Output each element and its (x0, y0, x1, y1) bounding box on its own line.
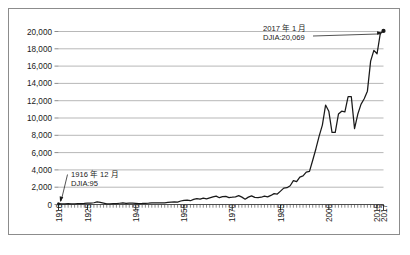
y-tick-label-10000: 10,000 (27, 114, 52, 123)
x-minor-tick-marks (59, 205, 384, 208)
x-tick-label-2017: 2017 (380, 203, 389, 222)
x-tick-label-1985: 1985 (277, 203, 286, 222)
end-point-marker (381, 29, 385, 33)
end-annotation-line1: 2017 年 1 月 (263, 23, 306, 33)
y-tick-label-6000: 6,000 (32, 149, 53, 158)
y-tick-label-12000: 12,000 (27, 97, 52, 106)
y-axis-tick-labels: 02,0004,0006,0008,00010,00012,00014,0001… (27, 28, 52, 210)
start-annotation-arrowhead (60, 196, 64, 202)
x-tick-label-2000: 2000 (325, 203, 334, 222)
start-annotation-line1: 1916 年 12 月 (71, 169, 119, 179)
x-tick-label-1955: 1955 (180, 203, 189, 222)
y-tick-label-16000: 16,000 (27, 62, 52, 71)
end-annotation-leader-line (313, 34, 381, 36)
end-annotation: 2017 年 1 月 DJIA:20,069 (263, 23, 382, 42)
x-tick-label-1916: 1916 (55, 203, 64, 222)
caption-strip (10, 240, 310, 252)
start-annotation: 1916 年 12 月 DJIA:95 (60, 169, 119, 203)
x-major-tick-marks (59, 205, 384, 211)
y-tick-label-20000: 20,000 (27, 28, 52, 37)
y-tick-label-14000: 14,000 (27, 79, 52, 88)
gridlines-group (59, 32, 384, 188)
y-tick-label-18000: 18,000 (27, 45, 52, 54)
y-tick-label-4000: 4,000 (32, 166, 53, 175)
start-annotation-line2: DJIA:95 (71, 179, 98, 188)
x-tick-label-1925: 1925 (84, 203, 93, 222)
x-tick-label-1970: 1970 (228, 203, 237, 222)
x-tick-label-1940: 1940 (132, 203, 141, 222)
chart-figure: 02,0004,0006,0008,00010,00012,00014,0001… (0, 0, 410, 255)
y-tick-label-0: 0 (47, 201, 52, 210)
y-tick-marks-group (55, 32, 59, 205)
start-point-marker (57, 202, 60, 205)
y-tick-label-2000: 2,000 (32, 183, 53, 192)
end-annotation-line2: DJIA:20,069 (263, 33, 305, 42)
y-tick-label-8000: 8,000 (32, 131, 53, 140)
djia-line-chart: 02,0004,0006,0008,00010,00012,00014,0001… (0, 0, 410, 255)
